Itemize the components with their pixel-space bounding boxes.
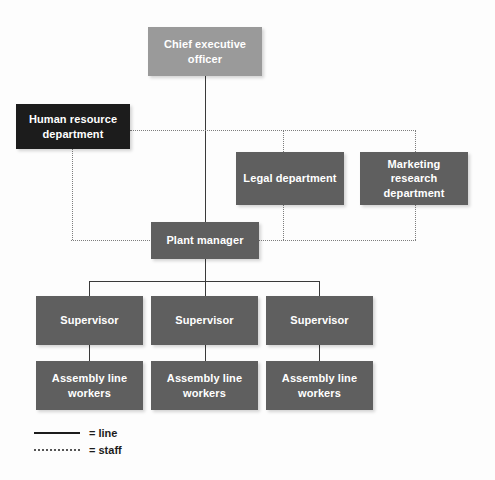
node-human-resource-department[interactable]: Human resource department xyxy=(16,104,130,149)
legend-row-staff: = staff xyxy=(34,441,122,458)
legend-label-line: = line xyxy=(89,427,117,439)
node-chief-executive-officer[interactable]: Chief executive officer xyxy=(148,27,262,76)
node-marketing-research-department[interactable]: Marketing research department xyxy=(360,152,468,205)
legend-label-staff: = staff xyxy=(89,444,122,456)
org-chart: Chief executive officer Human resource d… xyxy=(0,0,495,480)
dotted-line-swatch-icon xyxy=(34,449,80,451)
node-legal-department[interactable]: Legal department xyxy=(236,152,344,205)
connector-bus-to-supervisor-2 xyxy=(205,281,206,296)
node-supervisor-2[interactable]: Supervisor xyxy=(151,296,258,345)
legend: = line = staff xyxy=(34,424,122,458)
connector-supervisor-2-to-workers-2 xyxy=(205,345,206,361)
node-supervisor-3[interactable]: Supervisor xyxy=(266,296,373,345)
staff-connector-lower-bus-left xyxy=(71,240,152,241)
connector-plant-manager-drop xyxy=(205,259,206,281)
staff-connector-upper-to-legal xyxy=(283,130,284,152)
node-assembly-line-workers-1[interactable]: Assembly line workers xyxy=(36,361,143,410)
node-assembly-line-workers-2[interactable]: Assembly line workers xyxy=(151,361,258,410)
node-assembly-line-workers-3[interactable]: Assembly line workers xyxy=(266,361,373,410)
staff-connector-upper-bus xyxy=(130,130,416,131)
staff-connector-upper-to-marketing xyxy=(415,130,416,152)
legend-row-line: = line xyxy=(34,424,122,441)
solid-line-swatch-icon xyxy=(34,432,80,434)
node-plant-manager[interactable]: Plant manager xyxy=(151,222,259,259)
node-supervisor-1[interactable]: Supervisor xyxy=(36,296,143,345)
connector-supervisor-1-to-workers-1 xyxy=(89,345,90,361)
staff-connector-hr-drop xyxy=(72,149,73,240)
connector-supervisor-3-to-workers-3 xyxy=(319,345,320,361)
staff-connector-marketing-to-lower-bus xyxy=(415,205,416,240)
connector-ceo-to-plant-manager xyxy=(205,76,206,222)
connector-bus-to-supervisor-3 xyxy=(319,281,320,296)
connector-bus-to-supervisor-1 xyxy=(89,281,90,296)
staff-connector-legal-to-lower-bus xyxy=(283,205,284,240)
